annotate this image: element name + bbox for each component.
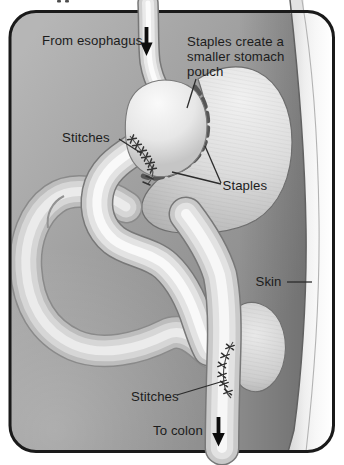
label-pouch-note-line1: Staples create a — [187, 34, 284, 49]
label-stitches-lower: Stitches — [131, 389, 179, 404]
label-pouch-note-line3: pouch — [187, 64, 223, 79]
label-pouch-note-line2: smaller stomach — [187, 49, 285, 64]
label-staples: Staples — [223, 178, 268, 193]
label-from-esophagus: From esophagus — [42, 33, 143, 48]
label-stitches-upper: Stitches — [62, 130, 110, 145]
gastric-bypass-figure: From esophagus Staples create a smaller … — [0, 0, 344, 465]
label-skin: Skin — [256, 274, 282, 289]
medical-illustration-panel: From esophagus Staples create a smaller … — [0, 0, 344, 465]
label-to-colon: To colon — [153, 423, 203, 438]
cropped-title-fragment — [57, 0, 69, 3]
